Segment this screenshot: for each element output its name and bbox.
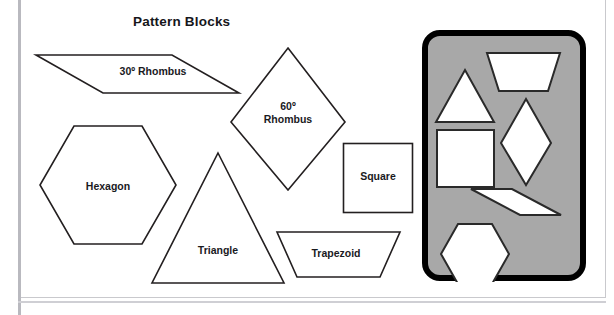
tray-cutout-square — [437, 130, 494, 187]
shape-triangle — [146, 147, 290, 289]
shape-label-rhombus-30: 30º Rhombus — [98, 65, 208, 78]
shape-label-trapezoid: Trapezoid — [296, 247, 376, 260]
shape-label-rhombus-60-line1: 60º — [248, 100, 328, 113]
shape-label-triangle: Triangle — [173, 244, 263, 257]
shape-label-square: Square — [348, 170, 408, 183]
shape-label-hexagon: Hexagon — [63, 180, 153, 193]
page-title: Pattern Blocks — [133, 14, 230, 29]
pattern-blocks-figure: Pattern Blocks 30º Rhombus 60º Rhombus H… — [0, 0, 614, 315]
page-bottom-rule — [18, 301, 606, 303]
page-left-rule — [18, 0, 21, 315]
pattern-block-tray — [421, 29, 587, 282]
tray-cutout-trapezoid — [487, 53, 560, 91]
shape-label-rhombus-60-line2: Rhombus — [248, 113, 328, 126]
